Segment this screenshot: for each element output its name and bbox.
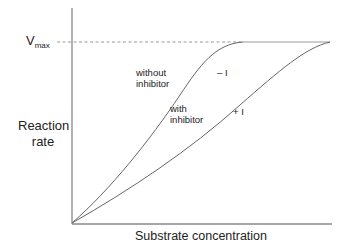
curve-with-inhibitor	[72, 42, 330, 223]
y-axis-label: Reaction rate	[18, 118, 68, 150]
y-axis-label-line2: rate	[18, 134, 68, 150]
x-axis-label: Substrate concentration	[135, 229, 267, 243]
annotation-plus-i: + I	[233, 106, 244, 117]
vmax-label: Vmax	[26, 33, 50, 50]
y-axis-label-line1: Reaction	[18, 118, 68, 134]
annotation-without-inhibitor: without inhibitor	[136, 67, 169, 89]
annotation-line: inhibitor	[136, 78, 169, 89]
annotation-line: inhibitor	[170, 114, 203, 125]
annotation-line: without	[136, 67, 169, 78]
annotation-line: with	[170, 103, 203, 114]
annotation-with-inhibitor: with inhibitor	[170, 103, 203, 125]
annotation-minus-i: – I	[217, 67, 228, 78]
